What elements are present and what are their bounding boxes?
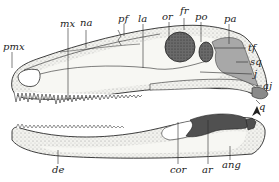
label-ang: ang: [222, 160, 241, 170]
label-aj: aj: [263, 81, 272, 91]
skull-diagram: [0, 0, 279, 182]
naris: [18, 69, 40, 86]
label-sq: sq: [250, 57, 262, 67]
label-pf: pf: [118, 14, 128, 24]
label-de: de: [52, 165, 64, 175]
label-j: j: [254, 69, 257, 79]
mandible: [12, 106, 265, 158]
supratemporal-fenestra: [199, 42, 213, 62]
orbit: [165, 32, 195, 62]
label-pa: pa: [224, 14, 236, 24]
lower-teeth: [16, 124, 124, 128]
label-la: la: [138, 14, 147, 24]
label-pmx: pmx: [3, 42, 25, 52]
label-mx: mx: [60, 19, 75, 29]
label-po: po: [195, 12, 207, 22]
label-cor: cor: [170, 165, 186, 175]
label-fr: fr: [180, 6, 188, 16]
label-or: or: [162, 12, 173, 22]
cranium: [12, 25, 268, 104]
label-q: q: [259, 102, 265, 112]
label-tf: tf: [248, 43, 256, 53]
label-na: na: [80, 18, 92, 28]
label-ar: ar: [202, 165, 213, 175]
